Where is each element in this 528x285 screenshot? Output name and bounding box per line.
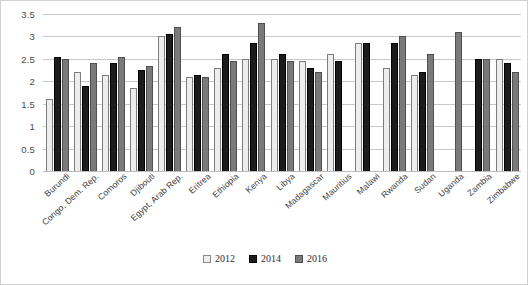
bar-2016 [230, 61, 237, 171]
legend-item-2012[interactable]: 2012 [203, 253, 235, 264]
y-axis-tick-label: 1 [30, 121, 35, 132]
plot-area [43, 14, 521, 171]
bar-groups [43, 14, 521, 171]
y-axis-tick-label: 3 [30, 31, 35, 42]
bar-2014 [475, 59, 482, 171]
bar-2012 [496, 59, 503, 171]
bar-2014 [222, 54, 229, 171]
bar-2012 [383, 68, 390, 171]
bar-2016 [287, 61, 294, 171]
bar-2014 [194, 75, 201, 171]
x-axis-label: Mauritius [320, 171, 353, 202]
legend-swatch-icon [249, 255, 257, 263]
bar-2016 [512, 72, 519, 171]
bar-2014 [54, 57, 61, 171]
bar-2014 [279, 54, 286, 171]
bar-chart: 00.511.522.533.5 BurundiCongo, Dem. Rep.… [0, 0, 528, 285]
bar-2016 [62, 59, 69, 171]
legend-label: 2012 [215, 253, 235, 264]
bar-group [324, 14, 352, 171]
bar-2012 [327, 54, 334, 171]
bar-group [296, 14, 324, 171]
legend-swatch-icon [203, 255, 211, 263]
x-axis-label: Eritrea [187, 171, 213, 196]
x-axis-labels: BurundiCongo, Dem. Rep.ComorosDjiboutiEg… [43, 171, 521, 233]
legend-item-2016[interactable]: 2016 [295, 253, 327, 264]
y-axis-tick-label: 0 [30, 166, 35, 177]
bar-2014 [335, 61, 342, 171]
bar-2012 [130, 88, 137, 171]
legend-item-2014[interactable]: 2014 [249, 253, 281, 264]
bar-group [71, 14, 99, 171]
bar-2014 [504, 63, 511, 171]
bar-2016 [90, 63, 97, 171]
bar-2016 [118, 57, 125, 171]
bar-group [184, 14, 212, 171]
y-axis-tick-label: 1.5 [21, 98, 35, 109]
y-axis-tick-label: 2 [30, 76, 35, 87]
bar-2014 [307, 68, 314, 171]
bar-2016 [315, 72, 322, 171]
bar-group [240, 14, 268, 171]
bar-group [127, 14, 155, 171]
y-axis-tick-label: 0.5 [21, 143, 35, 154]
bar-2016 [427, 54, 434, 171]
bar-2012 [411, 75, 418, 171]
y-axis: 00.511.522.533.5 [1, 14, 39, 171]
bar-group [43, 14, 71, 171]
bar-2016 [258, 23, 265, 171]
bar-2014 [363, 43, 370, 171]
bar-2016 [202, 77, 209, 171]
bar-group [437, 14, 465, 171]
bar-2014 [110, 63, 117, 171]
x-axis-label: Sudan [412, 171, 438, 195]
bar-2014 [138, 70, 145, 171]
bar-2012 [299, 61, 306, 171]
bar-2016 [146, 66, 153, 171]
y-axis-tick-label: 3.5 [21, 9, 35, 20]
legend-swatch-icon [295, 255, 303, 263]
bar-2012 [74, 72, 81, 171]
legend-label: 2016 [307, 253, 327, 264]
bar-2014 [391, 43, 398, 171]
x-axis-label: Kenya [244, 171, 269, 195]
x-axis-label: Egypt, Arab Rep. [128, 171, 184, 223]
bar-2014 [166, 34, 173, 171]
bar-group [493, 14, 521, 171]
bar-2016 [455, 32, 462, 171]
bar-2016 [174, 27, 181, 171]
bar-2014 [250, 43, 257, 171]
bar-group [381, 14, 409, 171]
bar-group [212, 14, 240, 171]
bar-2012 [214, 68, 221, 171]
bar-2016 [399, 36, 406, 171]
bar-2012 [355, 43, 362, 171]
bar-2012 [102, 75, 109, 171]
x-axis-label: Libya [275, 171, 297, 193]
bar-group [465, 14, 493, 171]
bar-group [352, 14, 380, 171]
y-axis-tick-label: 2.5 [21, 53, 35, 64]
bar-2012 [46, 99, 53, 171]
x-axis-label: Comoros [95, 171, 128, 202]
bar-group [99, 14, 127, 171]
x-axis-label: Rwanda [379, 171, 410, 200]
bar-2016 [483, 59, 490, 171]
x-axis-label: Ethiopia [211, 171, 241, 200]
bar-group [409, 14, 437, 171]
bar-2012 [242, 59, 249, 171]
bar-2012 [186, 77, 193, 171]
bar-2014 [419, 72, 426, 171]
bar-2012 [158, 36, 165, 171]
bar-2012 [271, 59, 278, 171]
bar-group [156, 14, 184, 171]
chart-legend: 201220142016 [1, 253, 528, 264]
x-axis-label: Malawi [354, 171, 381, 197]
bar-2014 [82, 86, 89, 171]
legend-label: 2014 [261, 253, 281, 264]
x-axis-label: Uganda [436, 171, 466, 199]
bar-group [268, 14, 296, 171]
